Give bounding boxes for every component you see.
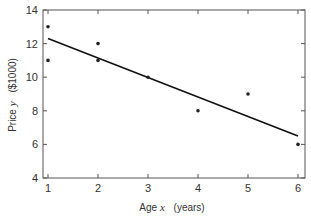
x-tick-label: 3 xyxy=(145,182,151,194)
y-tick-label: 8 xyxy=(32,105,38,117)
regression-line xyxy=(48,39,298,136)
x-axis-label-name: Age xyxy=(139,202,157,213)
x-axis-label-var: x xyxy=(159,201,165,213)
y-axis-label-unit: ($1000) xyxy=(7,58,18,92)
x-axis-label-unit: (years) xyxy=(174,202,205,213)
y-tick-label: 12 xyxy=(26,38,38,50)
data-points xyxy=(46,25,300,146)
scatter-chart: 123456 468101214 Age x (years) Price y (… xyxy=(0,0,311,217)
y-tick-label: 10 xyxy=(26,71,38,83)
fit-line xyxy=(48,39,298,136)
data-point xyxy=(46,59,50,63)
y-axis-label-var: y xyxy=(6,101,18,107)
data-point xyxy=(296,143,300,147)
data-point xyxy=(46,25,50,29)
x-tick-label: 2 xyxy=(95,182,101,194)
data-point xyxy=(96,59,100,63)
plot-border xyxy=(43,10,305,178)
data-point xyxy=(146,75,150,79)
x-axis-label: Age x (years) xyxy=(139,201,204,213)
data-point xyxy=(246,92,250,96)
x-tick-label: 6 xyxy=(295,182,301,194)
data-point xyxy=(96,42,100,46)
y-axis-label: Price y ($1000) xyxy=(6,58,18,132)
y-tick-label: 14 xyxy=(26,4,38,16)
y-tick-label: 4 xyxy=(32,172,38,184)
x-tick-label: 4 xyxy=(195,182,201,194)
y-tick-label: 6 xyxy=(32,138,38,150)
x-tick-label: 5 xyxy=(245,182,251,194)
y-axis-label-name: Price xyxy=(7,109,18,132)
plot-frame xyxy=(43,10,305,178)
y-axis-ticks: 468101214 xyxy=(26,4,305,184)
data-point xyxy=(196,109,200,113)
x-axis-ticks: 123456 xyxy=(45,10,301,194)
x-tick-label: 1 xyxy=(45,182,51,194)
